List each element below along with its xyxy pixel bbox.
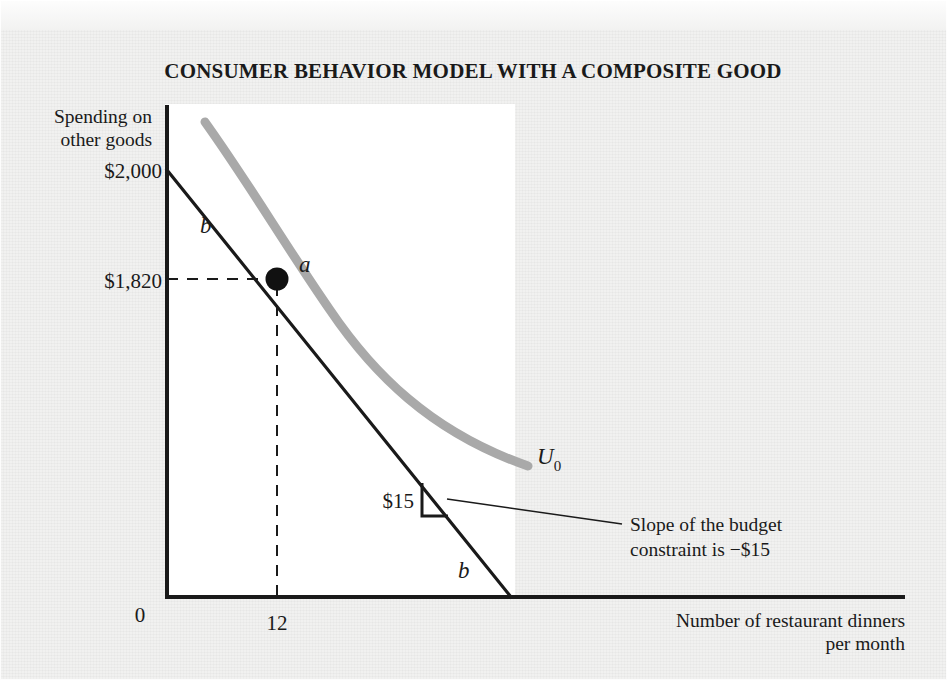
page-title: CONSUMER BEHAVIOR MODEL WITH A COMPOSITE… (164, 59, 781, 83)
y-tick-label-1820: $1,820 (104, 269, 162, 293)
rise-label-15: $15 (383, 489, 415, 513)
optimal-point-a-label: a (299, 252, 311, 277)
y-axis-label-line2: other goods (60, 129, 152, 150)
x-axis-label-line1: Number of restaurant dinners (676, 610, 905, 631)
budget-label-upper-b: b (200, 213, 212, 238)
slope-annotation-line2: constraint is −$15 (630, 539, 770, 560)
u-subscript: 0 (554, 458, 562, 474)
x-tick-label-12: 12 (267, 611, 288, 635)
consumer-behavior-chart: CONSUMER BEHAVIOR MODEL WITH A COMPOSITE… (0, 0, 947, 680)
optimal-point-a-marker (266, 268, 289, 291)
indifference-curve-label: U0 (537, 444, 561, 474)
u-letter: U (537, 444, 555, 469)
y-tick-label-2000: $2,000 (104, 159, 162, 183)
budget-label-lower-b: b (458, 558, 470, 583)
slope-annotation-line1: Slope of the budget (630, 514, 783, 535)
plot-area-background (165, 104, 515, 598)
y-axis-label-line1: Spending on (54, 106, 152, 127)
origin-label: 0 (135, 603, 146, 627)
figure-container: CONSUMER BEHAVIOR MODEL WITH A COMPOSITE… (0, 0, 947, 680)
x-axis-label-line2: per month (825, 633, 905, 654)
